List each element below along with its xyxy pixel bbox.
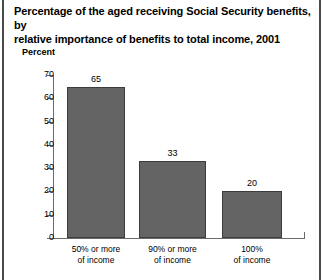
y-axis-unit-label: Percent [22,47,55,57]
y-axis-tick-label: 0 [12,232,54,242]
x-axis-category-label: 100%of income [208,244,296,266]
y-axis-tick: 60 [0,98,54,99]
bar-value-label: 20 [222,178,282,188]
x-axis-category-label: 90% or moreof income [125,244,220,266]
y-axis-tick-label: 20 [12,185,54,195]
bar [67,87,125,238]
y-axis-tick: 30 [0,168,54,169]
bar-chart: Percent 010203040506070 653320 50% or mo… [0,0,323,280]
bar [222,191,282,238]
y-axis-tick: 0 [0,238,54,239]
bar-value-label: 65 [67,74,125,84]
figure-sheet: Percentage of the aged receiving Social … [0,0,323,280]
y-axis-tick: 10 [0,215,54,216]
x-axis-category-label-line: 90% or more [125,244,220,255]
y-axis-tick-label: 10 [12,209,54,219]
y-axis-tick-label: 50 [12,116,54,126]
x-axis-line [53,238,305,239]
y-axis-tick: 40 [0,145,54,146]
y-axis-tick-label: 60 [12,92,54,102]
y-axis-tick: 50 [0,122,54,123]
y-axis-tick-label: 70 [12,69,54,79]
x-axis-category-label-line: of income [208,255,296,266]
y-axis-tick-label: 40 [12,139,54,149]
y-axis-tick: 70 [0,75,54,76]
bar-value-label: 33 [139,148,206,158]
bar [139,161,206,238]
x-axis-category-label-line: of income [125,255,220,266]
x-axis-end-tick [304,232,305,239]
y-axis-tick-label: 30 [12,162,54,172]
y-axis-tick: 20 [0,191,54,192]
x-axis-category-label-line: 100% [208,244,296,255]
